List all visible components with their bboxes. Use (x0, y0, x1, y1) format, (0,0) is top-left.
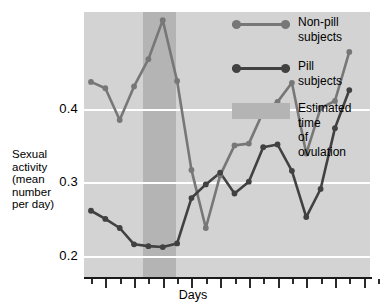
y-axis-title-line-1: Sexual (12, 148, 74, 161)
data-point (232, 143, 238, 149)
x-axis-tick (206, 279, 208, 284)
x-axis-tick (278, 279, 280, 288)
data-point (146, 56, 152, 62)
data-point (246, 141, 252, 147)
data-point (232, 191, 238, 197)
data-point (217, 170, 223, 176)
x-axis-tick (335, 279, 337, 288)
x-axis-tick (263, 279, 265, 284)
data-point (275, 142, 281, 148)
y-axis-title-line-2: activity (12, 161, 74, 174)
data-point (117, 117, 123, 123)
x-axis-tick (120, 279, 122, 284)
y-tick-label-0.3: 0.3 (38, 174, 78, 189)
data-point (160, 244, 166, 250)
data-point (102, 216, 108, 222)
data-point (117, 225, 123, 231)
x-axis-tick (220, 279, 222, 288)
data-point (346, 87, 352, 93)
y-axis-title-line-5: per day) (12, 198, 74, 211)
x-axis-tick (177, 279, 179, 284)
x-axis-tick (134, 279, 136, 288)
x-axis-tick (349, 279, 351, 284)
data-point (318, 186, 324, 192)
legend-swatch-ovulation (232, 103, 290, 119)
data-point (102, 85, 108, 91)
data-point (289, 168, 295, 174)
legend-label-ovulation: Estimated time of ovulation (298, 101, 351, 159)
x-axis-title: Days (0, 288, 386, 302)
x-axis-tick (163, 279, 165, 288)
x-axis-tick (105, 279, 107, 288)
data-point (260, 144, 266, 150)
x-axis-tick (306, 279, 308, 288)
data-point (160, 17, 166, 23)
data-point (289, 80, 295, 86)
chart-figure: Sexual activity (mean number per day) 0.… (0, 0, 386, 308)
x-axis-tick (148, 279, 150, 284)
data-point (174, 241, 180, 247)
x-axis-line (84, 277, 372, 279)
x-axis-tick (378, 279, 380, 284)
legend-dot-right-pill (281, 64, 290, 73)
legend-dot-left-pill (232, 64, 241, 73)
y-tick-label-0.2: 0.2 (38, 248, 78, 263)
data-point (146, 243, 152, 249)
legend-dot-right-non-pill (281, 20, 290, 29)
x-axis-tick (249, 279, 251, 288)
x-axis-tick (191, 279, 193, 288)
x-axis-tick (321, 279, 323, 284)
x-axis-tick (235, 279, 237, 284)
legend-label-non-pill: Non-pill subjects (298, 15, 342, 44)
legend-dot-left-non-pill (232, 20, 241, 29)
data-point (131, 241, 137, 247)
y-tick-label-0.4: 0.4 (38, 101, 78, 116)
data-point (88, 79, 94, 85)
data-point (346, 49, 352, 55)
data-point (88, 208, 94, 214)
data-point (189, 167, 195, 173)
data-point (203, 182, 209, 188)
data-point (246, 179, 252, 185)
data-point (303, 214, 309, 220)
x-axis-tick (364, 279, 366, 288)
data-point (203, 225, 209, 231)
data-point (174, 78, 180, 84)
x-axis-tick (91, 279, 93, 284)
x-axis-tick (292, 279, 294, 284)
legend-label-pill: Pill subjects (298, 59, 342, 88)
data-point (189, 195, 195, 201)
data-point (131, 84, 137, 90)
